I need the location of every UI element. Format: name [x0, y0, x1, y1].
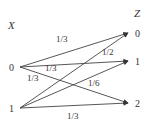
- edge-label-x1-z2: 1/3: [67, 111, 79, 121]
- output-node-2: 2: [135, 98, 140, 109]
- edge-label-x0-z2: 1/3: [27, 73, 39, 83]
- output-node-1: 1: [135, 56, 140, 67]
- input-node-1: 1: [9, 103, 14, 114]
- edge-label-x0-z1: 1/3: [45, 63, 57, 73]
- output-variable-label: Z: [134, 7, 141, 19]
- edge-x1-z1: [20, 61, 128, 108]
- channel-diagram: X Z 0 1 0 1 2 1/3 1/3 1/3 1/2 1/6 1/3: [0, 0, 150, 129]
- edge-label-x1-z0: 1/2: [102, 47, 114, 57]
- input-variable-label: X: [7, 19, 16, 31]
- edge-x1-z2: [20, 103, 128, 108]
- output-node-0: 0: [135, 28, 140, 39]
- edge-label-x0-z0: 1/3: [56, 34, 68, 44]
- edge-x1-z0: [20, 33, 128, 108]
- input-node-0: 0: [9, 62, 14, 73]
- edge-label-x1-z1: 1/6: [88, 78, 100, 88]
